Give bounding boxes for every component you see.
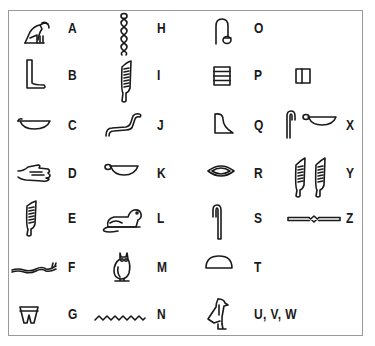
hand-icon (16, 163, 52, 183)
jar-stand-icon (18, 305, 40, 325)
reed-leaf-icon (119, 60, 133, 104)
letter-r: R (254, 164, 263, 181)
basket-with-handle-icon (104, 162, 140, 178)
letter-j: J (157, 116, 164, 133)
letter-f: F (68, 258, 76, 275)
letter-y: Y (346, 164, 354, 181)
letter-e: E (68, 209, 76, 226)
lion-icon (100, 205, 144, 233)
hill-slope-icon (213, 111, 235, 135)
letter-a: A (68, 19, 77, 36)
letter-g: G (68, 305, 78, 322)
letter-z: Z (346, 209, 354, 226)
letter-q: Q (254, 116, 264, 133)
basket-icon (17, 117, 51, 131)
letter-s: S (254, 209, 262, 226)
staff-and-basket-icon (282, 110, 338, 140)
twisted-flax-icon (116, 12, 132, 56)
reed-leaf-icon (24, 200, 38, 238)
letter-p: P (254, 66, 262, 83)
letter-m: M (157, 258, 167, 275)
letter-uvw: U, V, W (254, 305, 297, 322)
square-with-bar-icon (295, 68, 311, 84)
letter-t: T (254, 258, 262, 275)
letter-k: K (157, 164, 166, 181)
vulture-icon (22, 18, 52, 46)
door-bolt-icon (287, 214, 341, 224)
quail-chick-icon (206, 297, 230, 331)
folded-cloth-icon (210, 203, 224, 241)
owl-icon (111, 251, 133, 283)
mouth-icon (207, 164, 235, 178)
horned-viper-icon (10, 260, 58, 276)
cobra-icon (104, 112, 144, 138)
letter-l: L (157, 209, 165, 226)
bread-loaf-icon (204, 254, 234, 270)
letter-o: O (254, 19, 264, 36)
letter-d: D (68, 164, 77, 181)
letter-n: N (157, 305, 166, 322)
letter-b: B (68, 66, 77, 83)
water-ripple-icon (94, 314, 146, 322)
letter-x: X (346, 116, 354, 133)
letter-h: H (157, 19, 166, 36)
letter-c: C (68, 116, 77, 133)
stool-icon (213, 66, 231, 86)
double-reed-icon (293, 157, 333, 199)
leg-foot-icon (24, 58, 48, 90)
rope-lasso-icon (213, 16, 233, 46)
letter-i: I (157, 66, 161, 83)
